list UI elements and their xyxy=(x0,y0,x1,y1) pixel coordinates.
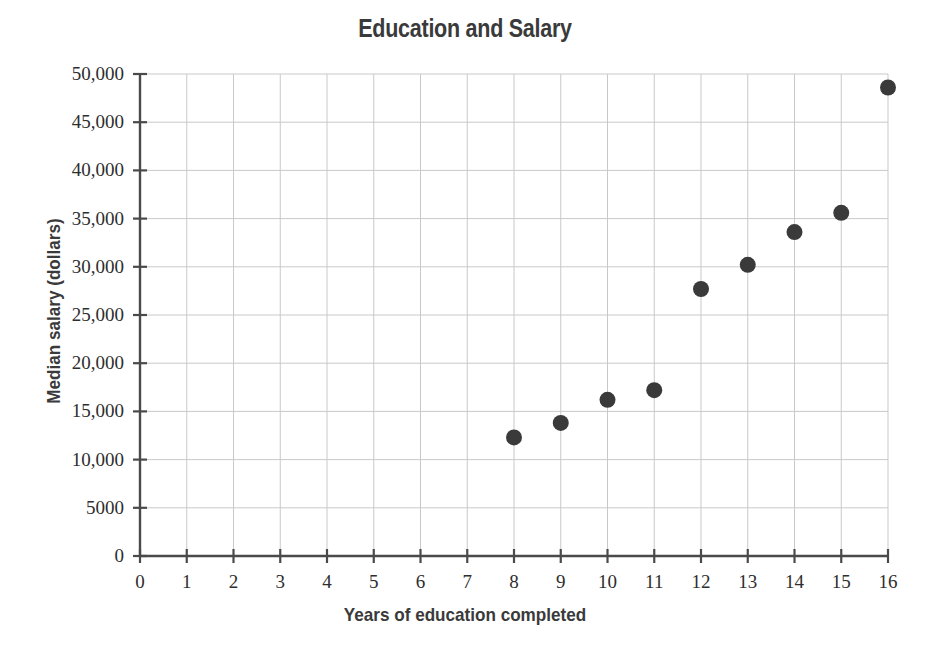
data-point xyxy=(693,281,709,297)
data-point xyxy=(646,382,662,398)
x-tick-label: 15 xyxy=(832,571,851,593)
y-tick-label: 50,000 xyxy=(30,63,124,85)
x-tick-label: 3 xyxy=(276,571,286,593)
data-point xyxy=(833,205,849,221)
x-tick-label: 6 xyxy=(416,571,426,593)
data-point xyxy=(506,429,522,445)
data-point xyxy=(553,415,569,431)
data-point xyxy=(880,79,896,95)
y-tick-label: 45,000 xyxy=(30,111,124,133)
y-axis-title: Median salary (dollars) xyxy=(43,131,65,491)
x-tick-label: 4 xyxy=(322,571,332,593)
data-point xyxy=(787,224,803,240)
data-point xyxy=(600,392,616,408)
x-tick-label: 9 xyxy=(556,571,566,593)
x-tick-label: 12 xyxy=(692,571,711,593)
x-tick-label: 10 xyxy=(598,571,617,593)
x-tick-label: 0 xyxy=(135,571,145,593)
x-tick-label: 5 xyxy=(369,571,379,593)
plot-area xyxy=(0,0,930,663)
x-tick-label: 11 xyxy=(645,571,663,593)
x-tick-label: 2 xyxy=(229,571,239,593)
x-tick-label: 13 xyxy=(738,571,757,593)
x-tick-label: 1 xyxy=(182,571,192,593)
x-tick-label: 7 xyxy=(463,571,473,593)
y-tick-label: 5000 xyxy=(30,497,124,519)
x-tick-label: 16 xyxy=(879,571,898,593)
x-axis-title: Years of education completed xyxy=(47,604,884,626)
x-tick-label: 14 xyxy=(785,571,804,593)
y-tick-label: 0 xyxy=(30,545,124,567)
scatter-chart: Education and Salary 0500010,00015,00020… xyxy=(0,0,930,663)
x-tick-label: 8 xyxy=(509,571,519,593)
data-point xyxy=(740,257,756,273)
